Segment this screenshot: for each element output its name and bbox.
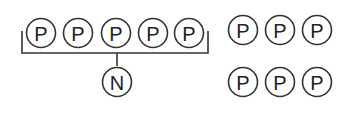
svg-text:P: P (236, 20, 249, 42)
svg-text:N: N (110, 72, 124, 94)
svg-text:P: P (34, 23, 47, 45)
diagram-canvas: P P P P P N P P P P P P (0, 0, 351, 113)
grid-node-r1c2: P (266, 16, 295, 45)
grid-node-r1c3: P (303, 16, 332, 45)
svg-text:P: P (109, 23, 122, 45)
node-n: N (103, 68, 132, 97)
grid-node-r2c3: P (303, 68, 332, 97)
svg-text:P: P (182, 23, 195, 45)
grid-node-r2c1: P (229, 68, 258, 97)
svg-text:P: P (310, 20, 323, 42)
grid-node-r2c2: P (266, 68, 295, 97)
node-p-1: P (27, 19, 56, 48)
grid-node-r1c1: P (229, 16, 258, 45)
node-p-5: P (175, 19, 204, 48)
svg-text:P: P (146, 23, 159, 45)
svg-text:P: P (71, 23, 84, 45)
node-p-2: P (64, 19, 93, 48)
svg-text:P: P (273, 72, 286, 94)
svg-text:P: P (236, 72, 249, 94)
node-p-3: P (102, 19, 131, 48)
node-p-4: P (139, 19, 168, 48)
svg-text:P: P (273, 20, 286, 42)
svg-text:P: P (310, 72, 323, 94)
